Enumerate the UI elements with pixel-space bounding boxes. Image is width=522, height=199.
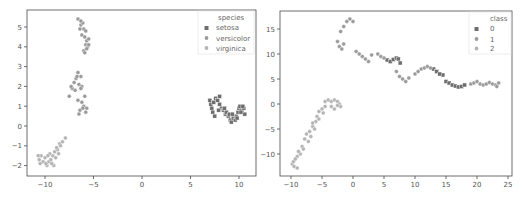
data-point-virginica (37, 158, 41, 162)
data-point-setosa (217, 108, 221, 112)
right-x-tick-label: 5 (382, 181, 386, 189)
data-point-versicolor (79, 19, 83, 23)
data-point-2 (301, 147, 305, 151)
legend-marker-class-2 (475, 47, 479, 51)
data-point-versicolor (85, 106, 89, 110)
right-legend-label-0: 0 (490, 25, 494, 33)
data-point-setosa (216, 98, 220, 102)
left-legend-title: species (218, 14, 244, 22)
data-point-versicolor (84, 110, 88, 114)
data-point-setosa (230, 112, 234, 116)
chart-canvas: −10−50510 −2−1012345 species setosa vers… (0, 0, 522, 199)
data-point-versicolor (83, 51, 87, 55)
data-point-2 (321, 111, 325, 115)
data-point-versicolor (77, 112, 81, 116)
right-x-tick-label: 20 (473, 181, 482, 189)
data-point-1 (367, 60, 371, 64)
left-x-tick-label: −10 (38, 181, 53, 189)
data-point-virginica (38, 162, 42, 166)
data-point-versicolor (73, 88, 77, 92)
data-point-setosa (239, 110, 243, 114)
data-point-1 (342, 25, 346, 29)
left-scatter-plot: −10−50510 −2−1012345 species setosa vers… (12, 10, 256, 189)
legend-marker-virginica (205, 46, 209, 50)
data-point-2 (308, 130, 312, 134)
data-point-virginica (63, 136, 67, 140)
data-point-1 (340, 47, 344, 51)
legend-marker-versicolor (205, 36, 209, 40)
left-y-tick-label: −2 (12, 162, 22, 170)
right-y-tick-label: 0 (271, 101, 275, 109)
data-point-1 (394, 70, 398, 74)
data-point-versicolor (80, 100, 84, 104)
data-point-1 (407, 76, 411, 80)
data-point-versicolor (87, 43, 91, 47)
data-point-versicolor (83, 35, 87, 39)
right-y-tick-label: −10 (260, 151, 275, 159)
right-legend: class 0 1 2 (469, 12, 511, 54)
right-x-tick-label: 10 (411, 181, 420, 189)
data-point-2 (329, 105, 333, 109)
data-point-virginica (46, 154, 50, 158)
data-point-setosa (212, 100, 216, 104)
data-point-setosa (218, 94, 222, 98)
data-point-versicolor (76, 98, 80, 102)
left-x-tick-label: 5 (188, 181, 192, 189)
left-y-axis-ticks: −2−1012345 (12, 24, 27, 171)
data-point-setosa (235, 116, 239, 120)
left-y-tick-label: 2 (18, 83, 22, 91)
data-point-virginica (50, 162, 54, 166)
data-point-setosa (208, 98, 212, 102)
right-x-tick-label: 0 (351, 181, 355, 189)
left-x-tick-label: 0 (140, 181, 144, 189)
right-x-tick-label: −10 (284, 181, 299, 189)
right-x-axis-ticks: −10−50510152025 (284, 176, 513, 189)
data-point-2 (311, 121, 315, 125)
data-point-2 (296, 150, 300, 154)
data-point-virginica (59, 144, 63, 148)
left-y-tick-label: 3 (18, 63, 22, 71)
right-y-tick-label: 10 (266, 51, 275, 59)
data-point-virginica (44, 162, 48, 166)
right-x-tick-label: 15 (442, 181, 451, 189)
right-legend-label-1: 1 (490, 36, 494, 44)
data-point-versicolor (75, 75, 79, 79)
data-point-1 (342, 42, 346, 46)
data-point-2 (293, 157, 297, 161)
data-point-versicolor (87, 37, 91, 41)
right-x-tick-label: −5 (317, 181, 327, 189)
data-point-2 (317, 117, 321, 121)
data-point-virginica (57, 152, 61, 156)
left-y-tick-label: 5 (18, 24, 22, 32)
left-y-tick-label: −1 (12, 142, 22, 150)
right-x-tick-label: 25 (504, 181, 513, 189)
data-point-virginica (60, 140, 64, 144)
data-point-versicolor (85, 47, 89, 51)
data-point-setosa (211, 110, 215, 114)
legend-marker-class-1 (475, 37, 479, 41)
data-point-setosa (213, 114, 217, 118)
data-point-0 (438, 72, 442, 76)
left-y-tick-label: 0 (18, 123, 22, 131)
legend-marker-class-0 (475, 27, 479, 31)
data-point-virginica (36, 154, 40, 158)
left-x-tick-label: −5 (88, 181, 98, 189)
data-point-2 (313, 127, 317, 131)
data-point-1 (495, 85, 499, 89)
data-point-1 (351, 20, 355, 24)
right-legend-label-2: 2 (490, 45, 494, 53)
data-point-0 (396, 57, 400, 61)
data-point-setosa (210, 106, 214, 110)
data-point-1 (370, 53, 374, 57)
data-point-setosa (218, 102, 222, 106)
data-point-2 (295, 166, 299, 170)
data-point-versicolor (79, 75, 83, 79)
left-y-tick-label: 1 (18, 103, 22, 111)
data-point-versicolor (72, 80, 76, 84)
data-point-2 (303, 137, 307, 141)
data-point-setosa (243, 112, 247, 116)
data-point-versicolor (81, 106, 85, 110)
right-scatter-plot: −10−50510152025 −10−5051015 class 0 1 2 (260, 11, 512, 189)
left-y-tick-label: 4 (18, 43, 23, 51)
legend-marker-setosa (205, 26, 209, 30)
